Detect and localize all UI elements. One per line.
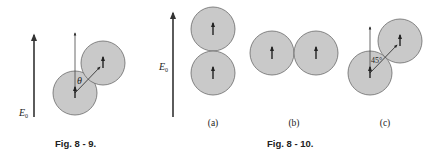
angle-label: 45° [371, 56, 382, 65]
angle-label: θ [77, 75, 82, 86]
field-label: E0 [158, 61, 168, 73]
panel-label-c: (c) [380, 118, 391, 129]
panel-label-b: (b) [288, 118, 299, 129]
panel-c: 45° (c) [348, 19, 422, 129]
panel-label-a: (a) [208, 118, 219, 129]
caption-fig-8-10: Fig. 8 - 10. [267, 138, 313, 149]
panel-b: (b) [250, 31, 338, 129]
caption-fig-8-9: Fig. 8 - 9. [55, 138, 96, 149]
fig-8-9: θ E0 Fig. 8 - 9. [18, 33, 125, 149]
panel-a: (a) [191, 7, 235, 129]
field-label: E0 [18, 107, 28, 119]
figure-canvas: θ E0 Fig. 8 - 9. E0 (a) (b) [0, 0, 443, 156]
fig-8-10: E0 (a) (b) 45° (c) Fig. 8 [158, 7, 422, 149]
